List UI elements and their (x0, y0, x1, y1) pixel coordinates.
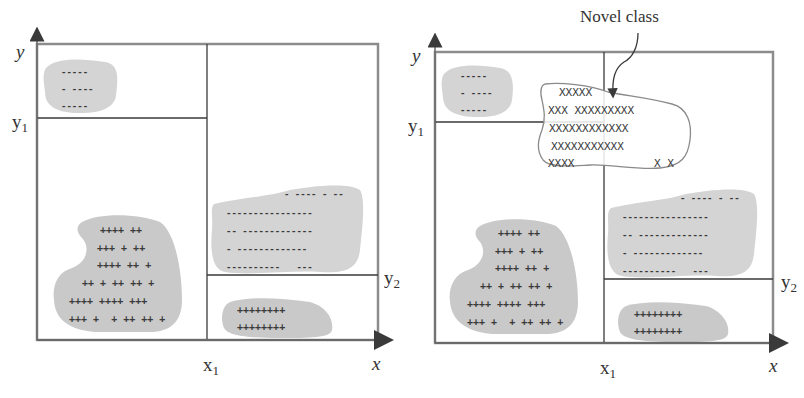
svg-text:++ + ++ ++ +: ++ + ++ ++ + (480, 280, 552, 291)
svg-text:----------------: ---------------- (622, 212, 709, 222)
svg-text:++++ ++ +: ++++ ++ + (97, 259, 151, 270)
svg-text:-- -------------: -- ------------- (622, 230, 709, 240)
svg-text:XXXXXXXXXXXX: XXXXXXXXXXXX (549, 122, 629, 135)
svg-text:-----: ----- (61, 101, 88, 111)
svg-text:XXX XXXXXXXXX: XXX XXXXXXXXX (548, 104, 634, 117)
left-y2-label: y2 (384, 267, 400, 291)
svg-text:- ---- - --: - ---- - -- (680, 193, 740, 203)
svg-text:----------------: ---------------- (226, 208, 313, 218)
svg-text:- ----: - ---- (460, 88, 493, 98)
svg-text:XXXXX: XXXXX (559, 86, 592, 99)
svg-text:++++ ++++ +++: ++++ ++++ +++ (69, 295, 147, 306)
figure-canvas: y y1 y2 x1 x ----- - ---- ----- ++++ ++ … (0, 0, 804, 398)
svg-text:---------- ---: ---------- --- (622, 266, 709, 276)
left-y1-label: y1 (12, 111, 28, 135)
svg-text:+++ + ++: +++ + ++ (97, 242, 145, 253)
svg-text:-----: ----- (460, 105, 487, 115)
right-panel: y y1 y2 x1 x Novel class ----- - ---- --… (408, 7, 797, 381)
right-x1-label: x1 (600, 357, 616, 381)
right-y1-label: y1 (408, 115, 424, 139)
svg-text:++++ ++++ +++: ++++ ++++ +++ (467, 298, 545, 309)
svg-text:-----: ----- (460, 71, 487, 81)
svg-text:++++++++: ++++++++ (237, 321, 285, 332)
svg-text:- ---- - --: - ---- - -- (284, 189, 344, 199)
svg-text:- ----: - ---- (61, 84, 94, 94)
svg-text:-- -------------: -- ------------- (226, 226, 313, 236)
svg-text:-----: ----- (61, 67, 88, 77)
right-y-axis-label: y (410, 45, 421, 66)
svg-text:- -------------: - ------------- (622, 248, 703, 258)
svg-text:++++ ++: ++++ ++ (100, 224, 142, 235)
svg-text:+++ + + ++ ++ +: +++ + + ++ ++ + (467, 316, 563, 327)
svg-text:++++++++: ++++++++ (634, 308, 682, 319)
novel-class-label: Novel class (580, 7, 659, 26)
svg-text:- -------------: - ------------- (226, 244, 307, 254)
svg-text:+++ + + ++ ++ +: +++ + + ++ ++ + (69, 313, 165, 324)
svg-text:++++ ++ +: ++++ ++ + (495, 262, 549, 273)
svg-text:XXXX X X: XXXX X X (548, 157, 674, 170)
svg-text:XXXXXXXXXXX: XXXXXXXXXXX (551, 140, 624, 153)
svg-text:++++++++: ++++++++ (634, 325, 682, 336)
left-y-axis-label: y (14, 41, 25, 62)
svg-text:+++ + ++: +++ + ++ (495, 245, 543, 256)
right-y2-label: y2 (781, 271, 797, 295)
svg-text:++++++++: ++++++++ (237, 304, 285, 315)
svg-text:++++ ++: ++++ ++ (498, 227, 540, 238)
novel-class-pointer-arrow (613, 33, 638, 96)
left-panel: y y1 y2 x1 x ----- - ---- ----- ++++ ++ … (12, 34, 400, 378)
svg-text:---------- ---: ---------- --- (226, 262, 313, 272)
left-x-axis-label: x (371, 353, 381, 374)
right-x-axis-label: x (768, 355, 778, 376)
svg-text:++ + ++ ++ +: ++ + ++ ++ + (82, 277, 154, 288)
left-x1-label: x1 (203, 354, 219, 378)
